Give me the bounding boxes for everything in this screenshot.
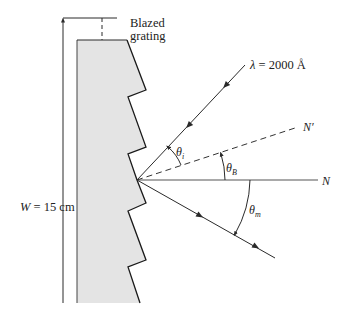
theta-b-label: θB: [226, 161, 237, 177]
facet-normal-label: N′: [302, 120, 314, 134]
width-label: W = 15 cm: [20, 200, 75, 214]
grating-label-line2: grating: [130, 29, 166, 43]
diffracted-ray-arrow-1: [196, 211, 205, 220]
theta-m-label: θm: [249, 203, 261, 219]
grating-label-line1: Blazed: [130, 16, 165, 30]
diffracted-ray-arrow-2: [252, 242, 261, 251]
wavelength-label: λ = 2000 Å: [249, 58, 306, 72]
theta-m-arc: [235, 180, 250, 234]
grating-normal-label: N: [321, 174, 331, 188]
theta-i-label: θi: [176, 145, 184, 161]
blazed-grating-diagram: W = 15 cm Blazed grating N N′ λ = 2000 Å…: [0, 0, 347, 313]
theta-b-arc: [221, 154, 225, 180]
facet-normal-dashed-line: [137, 127, 298, 180]
